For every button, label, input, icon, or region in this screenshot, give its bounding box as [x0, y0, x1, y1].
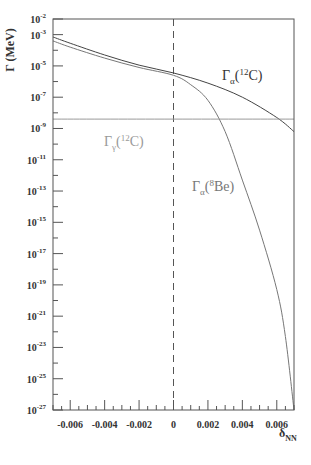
y-tick-label: 10-3: [30, 28, 46, 41]
chart: 10-210-310-510-710-910-1110-1310-1510-17…: [0, 0, 311, 465]
x-tick-label: -0.006: [57, 419, 83, 430]
y-tick-label: 10-7: [30, 90, 46, 103]
y-tick-label: 10-2: [30, 12, 46, 25]
y-tick-label: 10-27: [27, 403, 47, 416]
y-tick-label: 10-11: [27, 153, 46, 166]
y-tick-label: 10-19: [27, 278, 47, 291]
y-axis-tick-labels: 10-210-310-510-710-910-1110-1310-1510-17…: [27, 12, 47, 416]
y-axis-ticks: [53, 19, 63, 410]
x-tick-label: -0.002: [126, 419, 152, 430]
x-tick-label: -0.004: [92, 419, 118, 430]
series-label-gamma-alpha-12c: Γα(12C): [222, 67, 263, 86]
series-label-gamma-gamma-12c: Γγ(12C): [104, 133, 144, 152]
y-axis-title: Γ (MeV): [3, 28, 17, 72]
y-tick-label: 10-9: [30, 121, 46, 134]
x-tick-label: 0.002: [197, 419, 220, 430]
y-tick-label: 10-5: [30, 59, 46, 72]
y-tick-label: 10-25: [27, 372, 47, 385]
x-tick-label: 0: [171, 419, 176, 430]
series-label-gamma-alpha-8be: Γα(8Be): [192, 178, 235, 197]
x-axis-title: δNN: [279, 426, 297, 443]
y-tick-label: 10-17: [27, 247, 47, 260]
y-tick-label: 10-23: [27, 340, 47, 353]
y-tick-label: 10-13: [27, 184, 47, 197]
y-tick-label: 10-21: [27, 309, 47, 322]
x-axis-tick-labels: -0.006-0.004-0.00200.0020.0040.006: [57, 419, 288, 430]
y-tick-label: 10-15: [27, 215, 47, 228]
x-tick-label: 0.004: [231, 419, 254, 430]
